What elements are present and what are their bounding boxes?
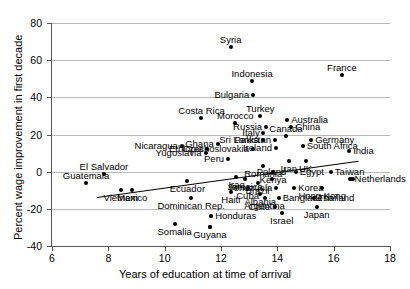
- data-point: [304, 159, 308, 163]
- point-label: Canada: [269, 124, 302, 134]
- x-axis-title: Years of education at time of arrival: [0, 268, 410, 280]
- y-tick-label: -40: [2, 241, 42, 251]
- point-label: Dominican Rep.: [157, 201, 225, 211]
- point-label: Israel: [270, 216, 293, 226]
- x-tick-mark: [52, 246, 53, 251]
- point-label: Honduras: [215, 211, 256, 221]
- x-tick-label: 10: [145, 252, 185, 264]
- point-label: Peru: [204, 154, 224, 164]
- data-point: [301, 144, 305, 148]
- data-point: [250, 79, 254, 83]
- point-label: Japan: [304, 210, 330, 220]
- point-label: Morocco: [217, 111, 253, 121]
- data-point: [348, 177, 355, 181]
- y-tick-mark: [47, 135, 52, 136]
- point-label: Syria: [220, 35, 242, 45]
- x-tick-mark: [390, 246, 391, 251]
- gridline: [52, 60, 390, 61]
- x-tick-label: 8: [88, 252, 128, 264]
- y-tick-mark: [47, 172, 52, 173]
- data-point: [294, 170, 298, 174]
- data-point: [273, 138, 277, 142]
- data-point: [280, 211, 284, 215]
- point-label: India: [353, 146, 374, 156]
- point-label: Indonesia: [231, 69, 272, 79]
- x-tick-mark: [221, 246, 222, 251]
- data-point: [312, 196, 316, 200]
- point-label: Guatemala: [63, 171, 109, 181]
- point-label: Ecuador: [170, 184, 205, 194]
- y-tick-mark: [47, 97, 52, 98]
- point-label: Venezuela: [228, 183, 272, 193]
- x-tick-mark: [108, 246, 109, 251]
- point-label: Bulgaria: [214, 90, 249, 100]
- data-point: [287, 159, 291, 163]
- y-tick-mark: [47, 60, 52, 61]
- point-label: Yugoslavia: [156, 148, 202, 158]
- data-point: [274, 146, 278, 150]
- data-point: [229, 45, 233, 49]
- scatter-plot-figure: -40-20020406080 681012141618 Years of ed…: [0, 0, 410, 289]
- x-tick-label: 6: [32, 252, 72, 264]
- x-tick-label: 16: [314, 252, 354, 264]
- point-label: France: [327, 63, 357, 73]
- x-tick-label: 14: [257, 252, 297, 264]
- y-axis-title: Percent wage improvement in first decade: [12, 35, 24, 240]
- x-tick-label: 18: [370, 252, 410, 264]
- data-point: [226, 157, 230, 161]
- data-point: [84, 181, 88, 185]
- point-label: Egypt: [300, 167, 324, 177]
- x-tick-label: 12: [201, 252, 241, 264]
- point-label: Mexico: [117, 193, 147, 203]
- x-tick-mark: [334, 246, 335, 251]
- point-label: Somalia: [158, 227, 192, 237]
- data-point: [285, 118, 289, 122]
- y-tick-label: 80: [2, 18, 42, 28]
- y-tick-mark: [47, 209, 52, 210]
- point-label: Netherlands: [355, 174, 406, 184]
- data-point: [273, 205, 277, 209]
- point-label: Thailand: [318, 193, 354, 203]
- data-point: [270, 177, 274, 181]
- gridline: [52, 23, 390, 24]
- point-label: Guyana: [193, 230, 226, 240]
- data-point: [329, 170, 333, 174]
- x-tick-mark: [165, 246, 166, 251]
- x-tick-mark: [277, 246, 278, 251]
- y-tick-mark: [47, 23, 52, 24]
- point-label: Poland: [257, 167, 287, 177]
